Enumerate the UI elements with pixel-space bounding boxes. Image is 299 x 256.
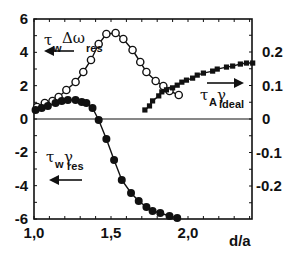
data-point <box>82 99 90 107</box>
svg-text:ideal: ideal <box>219 98 244 110</box>
y-left-tick-label: 0 <box>20 110 28 127</box>
data-point <box>63 86 70 93</box>
data-point <box>80 68 87 75</box>
data-point <box>72 78 79 85</box>
x-axis-label: d/a <box>229 232 251 249</box>
data-point <box>156 209 164 217</box>
data-point <box>175 91 182 98</box>
y-left-tick-label: 6 <box>20 10 28 27</box>
svg-text:A: A <box>209 96 217 108</box>
data-point <box>164 87 169 92</box>
data-point <box>175 83 180 88</box>
data-point <box>135 197 143 205</box>
data-point <box>89 104 97 112</box>
data-point <box>244 60 249 65</box>
data-point <box>179 80 184 85</box>
x-tick-label: 1,5 <box>101 224 122 241</box>
svg-text:τ: τ <box>44 31 52 49</box>
svg-text:res: res <box>86 42 103 54</box>
y-right-tick-label: -0.2 <box>256 177 282 194</box>
data-point <box>120 35 127 42</box>
data-point <box>147 103 152 108</box>
data-point <box>224 64 229 69</box>
data-point <box>87 56 94 63</box>
y-right-tick-label: 0.2 <box>262 43 283 60</box>
annotation-tau-w-delta-omega: τ w Δω res <box>44 29 103 56</box>
data-point <box>215 66 220 71</box>
data-point <box>142 107 147 112</box>
chart: 1,01,52,06420-2-4-60.20.10-0.1-0.2 τ w Δ… <box>0 0 299 256</box>
y-left-tick-label: 4 <box>20 43 29 60</box>
data-point <box>190 76 195 81</box>
plot-series <box>32 29 256 222</box>
svg-text:Δω: Δω <box>62 29 85 47</box>
data-point <box>127 189 135 197</box>
data-point <box>129 46 136 53</box>
data-point <box>149 207 157 215</box>
data-point <box>102 135 110 143</box>
data-point <box>103 30 110 37</box>
data-point <box>230 63 235 68</box>
svg-text:τ: τ <box>200 86 208 104</box>
plot-axes <box>34 19 252 219</box>
svg-text:res: res <box>67 160 84 172</box>
data-point <box>150 98 155 103</box>
data-point <box>152 77 159 84</box>
data-point <box>137 58 144 65</box>
data-point <box>170 85 175 90</box>
data-point <box>173 214 181 222</box>
data-point <box>166 212 174 220</box>
data-point <box>112 29 119 36</box>
data-point <box>44 102 52 110</box>
y-left-tick-label: -6 <box>15 210 28 227</box>
data-point <box>201 71 206 76</box>
y-right-tick-label: 0 <box>262 110 270 127</box>
annotation-tau-w-gamma: τ w γ res <box>46 148 84 185</box>
data-point <box>184 78 189 83</box>
svg-text:w: w <box>54 158 64 170</box>
y-left-tick-label: -2 <box>15 143 28 160</box>
y-left-tick-label: -4 <box>15 177 29 194</box>
data-point <box>143 68 150 75</box>
data-point <box>250 60 255 65</box>
data-point <box>210 68 215 73</box>
data-point <box>95 116 103 124</box>
arrow-left-icon <box>49 175 82 185</box>
y-right-tick-label: -0.1 <box>256 144 282 161</box>
y-left-tick-label: 2 <box>20 77 28 94</box>
svg-text:τ: τ <box>46 148 54 166</box>
annotation-tau-a-gamma-ideal: τ A γ ideal <box>200 78 244 110</box>
data-point <box>159 89 164 94</box>
data-point <box>118 176 126 184</box>
data-point <box>238 61 243 66</box>
data-point <box>195 73 200 78</box>
data-point <box>64 96 72 104</box>
y-right-tick-label: 0.1 <box>262 77 283 94</box>
x-tick-label: 2,0 <box>178 224 199 241</box>
data-point <box>110 156 118 164</box>
